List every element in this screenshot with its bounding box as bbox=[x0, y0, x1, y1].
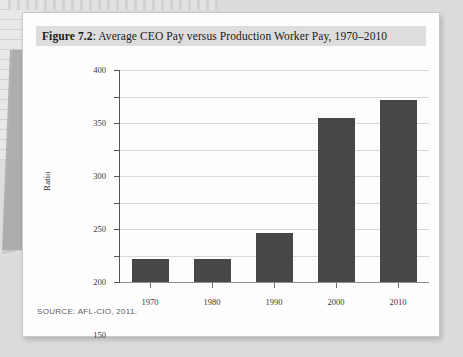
y-axis-tick: 300 bbox=[114, 123, 120, 124]
y-axis-tick: 50 bbox=[114, 256, 120, 257]
y-axis-tick: 100 bbox=[114, 229, 120, 230]
scanned-page-background: Figure 7.2: Average CEO Pay versus Produ… bbox=[0, 0, 463, 357]
y-axis-tick-label: 150 bbox=[93, 330, 106, 340]
y-axis-tick-label: 400 bbox=[93, 65, 106, 75]
gridline bbox=[119, 70, 429, 71]
x-axis-tick: 1980 bbox=[212, 283, 213, 288]
y-axis-tick: 250 bbox=[114, 150, 120, 151]
y-axis-tick: 400 bbox=[114, 70, 120, 71]
y-axis-tick-label: 350 bbox=[93, 118, 106, 128]
y-axis-tick-label: 200 bbox=[93, 277, 106, 287]
y-axis-tick: 150 bbox=[114, 203, 120, 204]
page-top-edge bbox=[8, 0, 218, 10]
x-axis-tick: 1990 bbox=[274, 283, 275, 288]
x-axis-tick-label: 1980 bbox=[204, 297, 221, 307]
bar bbox=[194, 259, 231, 282]
figure-title-separator: : bbox=[93, 30, 96, 42]
x-axis-tick: 2000 bbox=[336, 283, 337, 288]
x-axis-tick: 2010 bbox=[398, 283, 399, 288]
x-axis-tick-label: 2000 bbox=[328, 297, 345, 307]
y-axis-tick: 200 bbox=[114, 176, 120, 177]
y-axis-tick: 0 bbox=[114, 282, 120, 283]
y-axis-tick: 350 bbox=[114, 97, 120, 98]
figure-card: Figure 7.2: Average CEO Pay versus Produ… bbox=[22, 12, 440, 337]
y-axis-tick-label: 300 bbox=[93, 171, 106, 181]
x-axis-tick-label: 1990 bbox=[266, 297, 283, 307]
bar-chart: Ratio 0501001502002503003504001970198019… bbox=[57, 65, 431, 297]
bar bbox=[256, 233, 293, 282]
y-axis-tick-label: 250 bbox=[93, 224, 106, 234]
y-axis-label: Ratio bbox=[42, 171, 52, 190]
bar bbox=[318, 118, 355, 282]
figure-title: Figure 7.2: Average CEO Pay versus Produ… bbox=[36, 26, 426, 46]
x-axis-tick-label: 2010 bbox=[390, 297, 407, 307]
bar bbox=[380, 100, 417, 282]
gridline bbox=[119, 97, 429, 98]
source-note: SOURCE: AFL-CIO, 2011. bbox=[37, 307, 137, 316]
plot-area: 0501001502002503003504001970198019902000… bbox=[119, 70, 429, 283]
x-axis-tick: 1970 bbox=[150, 283, 151, 288]
x-axis-tick-label: 1970 bbox=[142, 297, 159, 307]
figure-caption: Average CEO Pay versus Production Worker… bbox=[98, 30, 387, 42]
bar bbox=[132, 259, 169, 282]
figure-number: Figure 7.2 bbox=[42, 30, 93, 42]
